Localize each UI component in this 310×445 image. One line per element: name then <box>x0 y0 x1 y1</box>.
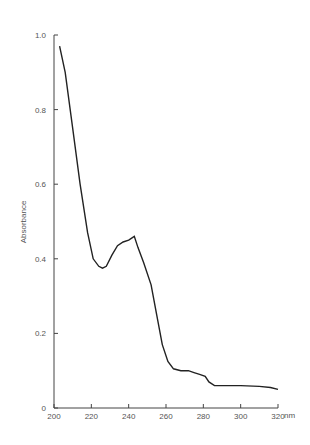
spectrum-line <box>60 46 278 389</box>
y-tick-label: 0.8 <box>35 106 47 115</box>
y-tick-label: 0.2 <box>35 329 47 338</box>
y-tick-label: 1.0 <box>35 31 47 40</box>
absorbance-chart: 00.20.40.60.81.0200220240260280300320 Ab… <box>0 0 310 445</box>
y-tick-label: 0.4 <box>35 255 47 264</box>
y-tick-label: 0 <box>42 404 47 413</box>
x-tick-label: 280 <box>197 412 211 421</box>
y-axis-label: Absorbance <box>19 200 28 243</box>
x-axis-unit: nm <box>284 411 295 420</box>
x-tick-label: 300 <box>234 412 248 421</box>
axes: 00.20.40.60.81.0200220240260280300320 <box>35 31 285 421</box>
x-tick-label: 260 <box>159 412 173 421</box>
y-tick-label: 0.6 <box>35 180 47 189</box>
x-tick-label: 220 <box>85 412 99 421</box>
x-tick-label: 200 <box>47 412 61 421</box>
x-tick-label: 240 <box>122 412 136 421</box>
